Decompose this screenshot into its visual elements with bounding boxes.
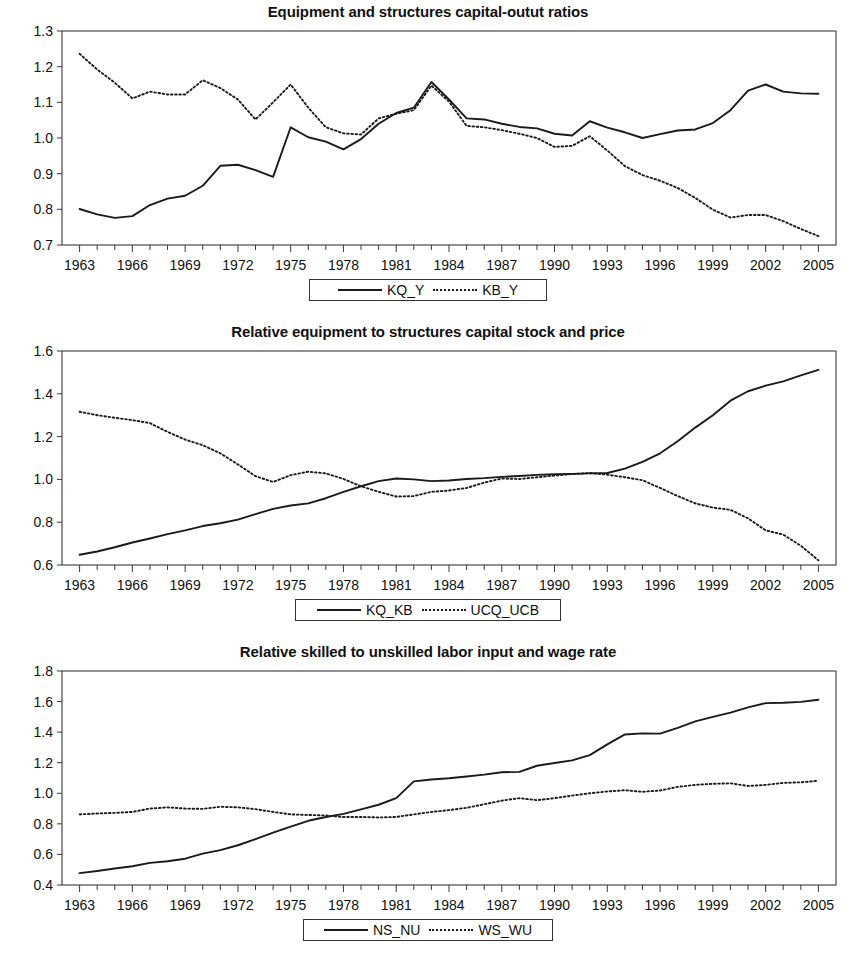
x-tick-label: 1975: [275, 257, 306, 273]
y-tick-label: 0.8: [34, 201, 54, 217]
x-tick-label: 1996: [645, 577, 676, 593]
legend-swatch-solid-icon: [338, 286, 382, 294]
chart-title-1: Equipment and structures capital-outut r…: [0, 0, 856, 23]
chart-legend-3: NS_NU WS_WU: [303, 919, 553, 941]
x-tick-label: 1993: [592, 897, 623, 913]
figure-page: Equipment and structures capital-outut r…: [0, 0, 856, 964]
x-tick-label: 1990: [539, 577, 570, 593]
x-tick-label: 1999: [697, 897, 728, 913]
y-tick-label: 1.6: [34, 343, 54, 359]
legend-swatch-solid-icon: [317, 606, 361, 614]
chart-legend-2: KQ_KB UCQ_UCB: [295, 599, 561, 621]
legend-label-ns-nu: NS_NU: [373, 923, 420, 937]
x-tick-label: 1969: [170, 257, 201, 273]
legend-entry-kq-y: KQ_Y: [338, 283, 424, 297]
x-tick-label: 1981: [381, 577, 412, 593]
x-tick-label: 2002: [750, 897, 781, 913]
x-tick-label: 1984: [433, 257, 464, 273]
x-tick-label: 1978: [328, 897, 359, 913]
y-tick-label: 0.8: [34, 514, 54, 530]
y-tick-label: 1.0: [34, 785, 54, 801]
legend-label-kq-y: KQ_Y: [387, 283, 424, 297]
chart-panel-capital-output-ratios: Equipment and structures capital-outut r…: [0, 0, 856, 320]
x-tick-label: 1978: [328, 577, 359, 593]
x-tick-label: 2002: [750, 577, 781, 593]
x-tick-label: 1990: [539, 257, 570, 273]
chart-panel-relative-capital-stock-price: Relative equipment to structures capital…: [0, 320, 856, 640]
y-tick-label: 1.1: [34, 94, 54, 110]
x-tick-label: 1990: [539, 897, 570, 913]
series-ws-wu: [80, 781, 819, 818]
chart-title-2: Relative equipment to structures capital…: [0, 320, 856, 343]
series-ucq-ucb: [80, 412, 819, 561]
y-tick-label: 1.6: [34, 694, 54, 710]
y-tick-label: 1.4: [34, 386, 54, 402]
y-tick-label: 0.4: [34, 877, 54, 893]
x-tick-label: 1993: [592, 257, 623, 273]
plot-area-2: 0.60.81.01.21.41.61963196619691972197519…: [0, 343, 856, 603]
x-tick-label: 1972: [222, 577, 253, 593]
plot-frame: [62, 31, 836, 245]
x-tick-label: 1966: [117, 577, 148, 593]
x-tick-label: 1999: [697, 577, 728, 593]
x-tick-label: 1996: [645, 897, 676, 913]
x-tick-label: 1984: [433, 897, 464, 913]
x-tick-label: 2005: [803, 897, 834, 913]
legend-swatch-dotted-icon: [422, 606, 466, 614]
y-tick-label: 1.2: [34, 755, 54, 771]
x-tick-label: 1987: [486, 897, 517, 913]
y-tick-label: 0.8: [34, 816, 54, 832]
x-tick-label: 2002: [750, 257, 781, 273]
x-tick-label: 1981: [381, 257, 412, 273]
x-tick-label: 1972: [222, 897, 253, 913]
y-tick-label: 1.8: [34, 663, 54, 679]
x-tick-label: 1987: [486, 577, 517, 593]
y-tick-label: 0.9: [34, 166, 54, 182]
y-tick-label: 1.2: [34, 59, 54, 75]
legend-entry-kb-y: KB_Y: [433, 283, 518, 297]
series-kq-y: [80, 82, 819, 218]
y-tick-label: 1.3: [34, 23, 54, 39]
series-ns-nu: [80, 700, 819, 873]
x-tick-label: 1987: [486, 257, 517, 273]
x-tick-label: 1993: [592, 577, 623, 593]
x-tick-label: 1966: [117, 897, 148, 913]
legend-swatch-dotted-icon: [429, 926, 473, 934]
plot-frame: [62, 351, 836, 565]
x-tick-label: 1978: [328, 257, 359, 273]
x-tick-label: 1999: [697, 257, 728, 273]
legend-label-ucq-ucb: UCQ_UCB: [471, 603, 539, 617]
x-tick-label: 1963: [64, 897, 95, 913]
x-tick-label: 1963: [64, 257, 95, 273]
x-tick-label: 2005: [803, 257, 834, 273]
x-tick-label: 2005: [803, 577, 834, 593]
y-tick-label: 1.4: [34, 724, 54, 740]
y-tick-label: 1.2: [34, 429, 54, 445]
y-tick-label: 0.7: [34, 237, 54, 253]
plot-area-3: 0.40.60.81.01.21.41.61.81963196619691972…: [0, 663, 856, 923]
legend-entry-ucq-ucb: UCQ_UCB: [422, 603, 539, 617]
chart-svg-3: 0.40.60.81.01.21.41.61.81963196619691972…: [0, 663, 856, 923]
series-kq-kb: [80, 370, 819, 555]
x-tick-label: 1981: [381, 897, 412, 913]
x-tick-label: 1972: [222, 257, 253, 273]
chart-svg-1: 0.70.80.91.01.11.21.31963196619691972197…: [0, 23, 856, 283]
legend-swatch-dotted-icon: [433, 286, 477, 294]
plot-area-1: 0.70.80.91.01.11.21.31963196619691972197…: [0, 23, 856, 283]
y-tick-label: 1.0: [34, 130, 54, 146]
chart-svg-2: 0.60.81.01.21.41.61963196619691972197519…: [0, 343, 856, 603]
y-tick-label: 0.6: [34, 557, 54, 573]
y-tick-label: 0.6: [34, 846, 54, 862]
legend-label-kq-kb: KQ_KB: [366, 603, 413, 617]
x-tick-label: 1984: [433, 577, 464, 593]
chart-panel-relative-labor-wage: Relative skilled to unskilled labor inpu…: [0, 640, 856, 964]
x-tick-label: 1996: [645, 257, 676, 273]
series-kb-y: [80, 54, 819, 236]
legend-entry-ns-nu: NS_NU: [324, 923, 420, 937]
x-tick-label: 1975: [275, 897, 306, 913]
legend-label-ws-wu: WS_WU: [478, 923, 532, 937]
y-tick-label: 1.0: [34, 471, 54, 487]
chart-legend-1: KQ_Y KB_Y: [309, 279, 547, 301]
x-tick-label: 1966: [117, 257, 148, 273]
legend-label-kb-y: KB_Y: [482, 283, 518, 297]
